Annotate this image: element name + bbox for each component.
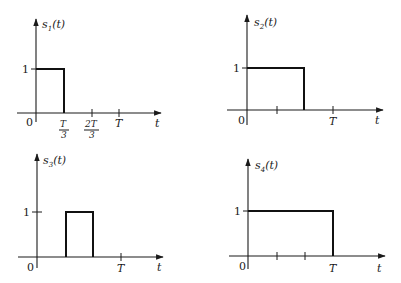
plot-title-s2: s2(t) [254,16,277,31]
tick-label-T-over-3-num: T [60,119,67,129]
tick-label-T: T [115,117,124,130]
t-axis-label: t [157,261,162,274]
plot-s4: s4(t) 1 0 T t [229,159,385,275]
plot-title-s3: s3(t) [43,154,66,169]
level-one-label: 1 [22,63,29,76]
pulse-s4 [248,211,333,256]
origin-label: 0 [26,116,33,129]
t-axis-label: t [155,117,160,130]
tick-label-T: T [329,262,338,275]
origin-label: 0 [239,260,246,273]
tick-label-T: T [329,115,338,128]
plot-s3: s3(t) 1 0 T t [18,154,163,275]
tick-label-T: T [117,262,126,275]
plot-title-s4: s4(t) [255,159,278,174]
pulse-s2 [247,68,304,110]
level-one-label: 1 [23,206,30,219]
tick-label-T-over-3-den: 3 [61,130,67,140]
level-one-label: 1 [234,205,241,218]
plot-s1: s1(t) 1 0 T 3 2T 3 T t [17,18,161,140]
signal-waveforms-figure: s1(t) 1 0 T 3 2T 3 T t s2(t) 1 0 T t s3(… [0,0,401,283]
tick-label-2T-over-3-num: 2T [84,119,98,129]
t-axis-label: t [377,262,382,275]
level-one-label: 1 [233,62,240,75]
origin-label: 0 [238,114,245,127]
origin-label: 0 [27,261,34,274]
pulse-s3 [66,212,93,257]
t-axis-label: t [375,114,380,127]
plot-s2: s2(t) 1 0 T t [227,15,383,128]
plot-title-s1: s1(t) [42,18,65,33]
tick-label-2T-over-3-den: 3 [89,130,95,140]
pulse-s1 [36,69,64,113]
